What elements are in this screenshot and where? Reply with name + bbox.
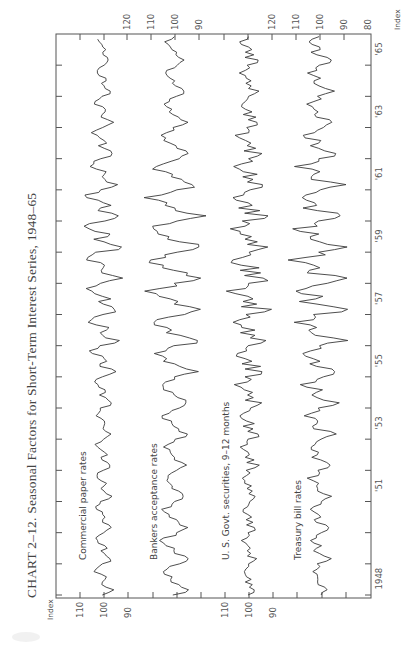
value-label-top: 110	[146, 14, 156, 30]
series-label: Treasury bill rates	[293, 480, 303, 561]
value-label-bottom: 90	[268, 607, 278, 618]
series-label: Bankers acceptance rates	[149, 443, 159, 560]
year-label: '55	[374, 354, 384, 367]
year-label: '63	[374, 105, 384, 118]
index-label-bottom: Index	[46, 599, 55, 620]
year-label: '65	[374, 42, 384, 55]
value-label-top: 90	[194, 19, 204, 30]
value-label-top: 120	[122, 14, 132, 30]
index-label-top: Index	[393, 9, 401, 30]
value-label-bottom: 110	[75, 602, 85, 618]
value-label-top: 100	[315, 14, 325, 30]
year-label: '57	[374, 292, 384, 305]
value-label-bottom: 100	[99, 602, 109, 618]
year-label: '61	[374, 167, 384, 180]
year-label: 1948	[374, 568, 384, 590]
value-label-top: 90	[339, 19, 349, 30]
series-lines	[84, 37, 348, 595]
year-label: '51	[374, 479, 384, 492]
value-label-bottom: 90	[123, 607, 133, 618]
year-label: '59	[374, 229, 384, 242]
value-label-top: 110	[291, 14, 301, 30]
value-label-top: 80	[363, 19, 373, 30]
series-line	[226, 37, 271, 595]
value-label-bottom: 100	[244, 602, 254, 618]
series-label: U. S. Govt. securities, 9–12 months	[221, 401, 231, 560]
chart-title: CHART 2–12. Seasonal Factors for Short-T…	[24, 193, 39, 598]
scan-smudge	[12, 632, 40, 642]
year-label: '53	[374, 416, 384, 429]
series-line	[84, 39, 123, 595]
series-label: Commercial paper rates	[78, 451, 88, 560]
value-label-top: 100	[170, 14, 180, 30]
value-label-top: 120	[267, 14, 277, 30]
seasonal-factors-chart: CHART 2–12. Seasonal Factors for Short-T…	[0, 0, 401, 670]
value-label-bottom: 110	[220, 602, 230, 618]
series-labels: Commercial paper ratesBankers acceptance…	[78, 401, 303, 561]
